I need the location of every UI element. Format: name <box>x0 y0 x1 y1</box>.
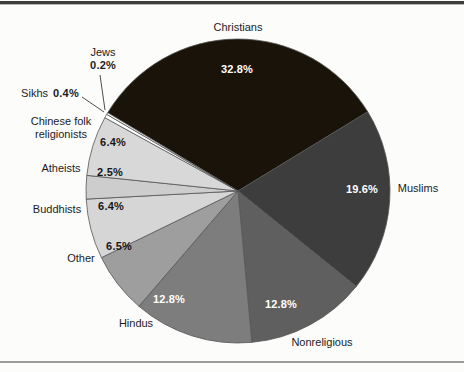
bottom-rule <box>0 361 464 363</box>
label-sikhs: Sikhs0.4% <box>21 87 79 100</box>
label-other: Other <box>67 252 95 265</box>
world-religions-pie-figure: Christians Muslims Nonreligious Hindus O… <box>0 0 464 372</box>
label-atheists: Atheists <box>41 162 80 175</box>
label-jews-name: Jews <box>90 46 115 58</box>
jews-leader-line <box>100 75 105 110</box>
sikhs-leader-line <box>82 97 104 112</box>
label-nonreligious: Nonreligious <box>291 336 352 349</box>
label-chinese-folk-line1: Chinese folk <box>31 115 92 127</box>
percent-chinese-folk-religionists: 6.4% <box>100 136 126 148</box>
percent-hindus: 12.8% <box>153 293 185 305</box>
percent-christians: 32.8% <box>221 63 253 75</box>
percent-atheists: 2.5% <box>97 166 123 178</box>
label-christians: Christians <box>214 21 263 34</box>
label-buddhists: Buddhists <box>33 203 81 216</box>
label-hindus: Hindus <box>119 317 153 330</box>
label-chinese-folk-religionists: Chinese folk religionists <box>31 115 92 141</box>
pie-slices <box>86 39 390 343</box>
label-jews: Jews 0.2% <box>90 46 116 72</box>
label-sikhs-name: Sikhs <box>21 87 48 99</box>
percent-buddhists: 6.4% <box>98 200 124 212</box>
percent-nonreligious: 12.8% <box>265 298 297 310</box>
percent-other: 6.5% <box>106 240 132 252</box>
pie-chart <box>0 0 464 372</box>
label-chinese-folk-line2: religionists <box>35 128 87 140</box>
label-sikhs-percent: 0.4% <box>53 87 79 99</box>
percent-muslims: 19.6% <box>346 183 378 195</box>
label-muslims: Muslims <box>398 182 438 195</box>
label-jews-percent: 0.2% <box>90 59 116 71</box>
